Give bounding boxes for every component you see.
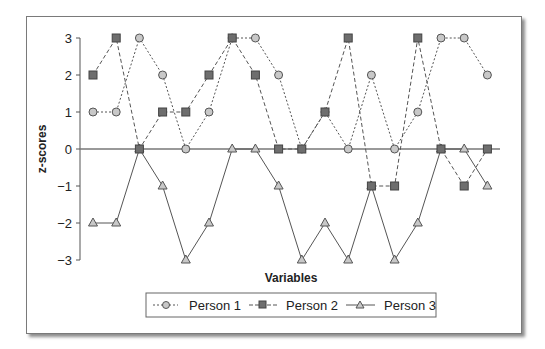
- data-point-triangle: [181, 255, 190, 263]
- data-point-triangle: [460, 144, 469, 152]
- svg-text:Person 1: Person 1: [189, 298, 241, 313]
- data-point-circle: [159, 71, 167, 79]
- data-point-triangle: [321, 218, 330, 226]
- data-point-square: [135, 145, 143, 153]
- data-point-triangle: [112, 218, 121, 226]
- data-point-square: [414, 34, 422, 42]
- data-point-square: [205, 71, 213, 79]
- svg-text:Person 2: Person 2: [286, 298, 338, 313]
- y-tick-label: 2: [65, 68, 72, 83]
- data-point-triangle: [483, 181, 492, 189]
- y-tick-label: 1: [65, 105, 72, 120]
- line-chart: 3210−1−2−3 z-scores Variables Person 1 P…: [0, 0, 545, 349]
- data-point-triangle: [228, 144, 237, 152]
- data-point-circle: [483, 71, 491, 79]
- data-point-circle: [460, 34, 468, 42]
- circle-marker-icon: [163, 302, 170, 309]
- data-point-circle: [135, 34, 143, 42]
- data-point-circle: [112, 108, 120, 116]
- data-point-circle: [251, 34, 259, 42]
- data-point-square: [228, 34, 236, 42]
- y-tick-label: −2: [57, 216, 72, 231]
- data-point-circle: [437, 34, 445, 42]
- data-point-square: [275, 145, 283, 153]
- series-line-person-3: [93, 149, 487, 260]
- data-point-square: [367, 182, 375, 190]
- data-point-triangle: [89, 218, 98, 226]
- data-point-triangle: [390, 255, 399, 263]
- data-point-square: [159, 108, 167, 116]
- data-point-circle: [205, 108, 213, 116]
- data-point-square: [182, 108, 190, 116]
- data-point-square: [483, 145, 491, 153]
- data-point-square: [460, 182, 468, 190]
- data-point-triangle: [251, 144, 260, 152]
- data-point-circle: [367, 71, 375, 79]
- data-point-triangle: [205, 218, 214, 226]
- y-axis-title: z-scores: [35, 124, 49, 173]
- data-point-square: [391, 182, 399, 190]
- y-tick-label: 3: [65, 31, 72, 46]
- square-marker-icon: [259, 301, 266, 308]
- data-point-square: [89, 71, 97, 79]
- data-point-circle: [391, 145, 399, 153]
- y-tick-label: −3: [57, 253, 72, 268]
- data-point-square: [321, 108, 329, 116]
- data-point-square: [298, 145, 306, 153]
- data-point-triangle: [344, 255, 353, 263]
- data-point-square: [437, 145, 445, 153]
- data-point-circle: [344, 145, 352, 153]
- legend: Person 1 Person 2 Person 3: [146, 293, 436, 317]
- data-point-circle: [182, 145, 190, 153]
- data-point-square: [344, 34, 352, 42]
- x-axis-title: Variables: [265, 271, 318, 285]
- data-point-circle: [275, 71, 283, 79]
- data-point-triangle: [297, 255, 306, 263]
- data-point-triangle: [413, 218, 422, 226]
- series-line-person-1: [93, 38, 487, 149]
- svg-text:Person 3: Person 3: [384, 298, 436, 313]
- y-tick-label: 0: [65, 142, 72, 157]
- data-point-square: [112, 34, 120, 42]
- data-point-circle: [414, 108, 422, 116]
- y-tick-label: −1: [57, 179, 72, 194]
- data-point-circle: [89, 108, 97, 116]
- data-point-triangle: [158, 181, 167, 189]
- data-point-triangle: [274, 181, 283, 189]
- data-point-square: [251, 71, 259, 79]
